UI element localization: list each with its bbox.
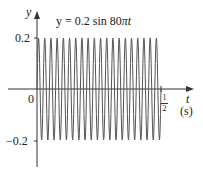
title-text: y = 0.2 sin 80 xyxy=(56,14,122,28)
chart-title: y = 0.2 sin 80πt xyxy=(56,15,131,27)
title-t: t xyxy=(128,14,131,28)
origin-label: 0 xyxy=(28,93,34,105)
y-axis-label: y xyxy=(26,6,31,18)
y-axis-arrow-icon xyxy=(34,11,40,19)
x-unit-label: (s) xyxy=(180,105,193,117)
sine-curve xyxy=(37,38,161,140)
x-tick-label-half: 1 2 xyxy=(161,94,168,113)
frac-den: 2 xyxy=(161,105,168,113)
y-tick-label-bottom: −0.2 xyxy=(6,135,28,147)
frac-num: 1 xyxy=(161,94,168,102)
y-tick-label-top: 0.2 xyxy=(15,32,30,44)
